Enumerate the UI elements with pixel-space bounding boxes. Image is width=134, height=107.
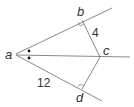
ray-ad [16,55,102,101]
length-label-bc: 4 [92,26,99,40]
label-d: d [76,90,84,105]
diagram-svg: a b c d 4 12 [0,0,134,107]
label-a: a [5,47,12,62]
segment-cd [82,57,100,89]
angle-mark-dot-upper [28,50,31,53]
geometry-diagram: a b c d 4 12 [0,0,134,107]
length-label-ad: 12 [37,76,51,90]
angle-mark-dot-lower [28,57,31,60]
label-b: b [77,4,84,19]
label-c: c [103,43,110,58]
ray-ac [16,55,130,57]
